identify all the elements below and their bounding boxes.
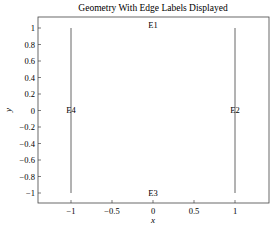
x-tick-label: 1: [233, 206, 237, 216]
y-tick-label: 0.4: [24, 73, 35, 83]
y-tick-label: 0: [31, 106, 35, 116]
chart-title: Geometry With Edge Labels Displayed: [78, 3, 228, 13]
x-tick-label: −1: [66, 206, 75, 216]
y-tick-label: −1: [26, 188, 35, 198]
edge-label-e2: E2: [230, 105, 239, 115]
x-tick-label: 0.5: [189, 206, 200, 216]
y-tick-label: −0.2: [20, 122, 35, 132]
y-tick-label: −0.6: [20, 155, 35, 165]
y-tick-label: 0.8: [24, 40, 35, 50]
edge-label-e3: E3: [148, 188, 157, 198]
edge-label-e1: E1: [148, 20, 157, 30]
y-tick-label: 0.6: [24, 56, 35, 66]
x-tick-label: −0.5: [104, 206, 119, 216]
x-axis-ticks: −1−0.500.51: [66, 200, 237, 216]
y-tick-label: −0.4: [20, 139, 36, 149]
y-tick-label: 0.2: [24, 89, 35, 99]
y-axis-label: y: [3, 108, 13, 113]
y-tick-label: −0.8: [20, 172, 35, 182]
x-axis-label: x: [150, 215, 155, 225]
edge-label-e4: E4: [66, 105, 76, 115]
y-tick-label: 1: [31, 23, 35, 33]
chart: Geometry With Edge Labels Displayed 10.8…: [0, 0, 278, 235]
